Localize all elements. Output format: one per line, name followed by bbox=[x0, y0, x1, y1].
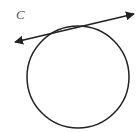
point-label-c: C bbox=[16, 7, 25, 23]
diagram-canvas: C bbox=[0, 0, 140, 132]
circle bbox=[27, 26, 129, 128]
tangent-line bbox=[15, 14, 134, 42]
